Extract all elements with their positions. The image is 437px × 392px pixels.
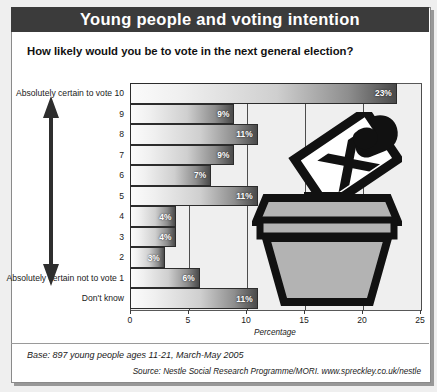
bar-row: 11% (130, 186, 420, 207)
base-note: Base: 897 young people ages 11-21, March… (27, 350, 243, 360)
likelihood-scale-arrow-icon (40, 96, 62, 286)
bar-value-label: 9% (217, 150, 233, 160)
x-axis-tick-label: 10 (241, 315, 251, 325)
bar[interactable]: 11% (130, 186, 258, 207)
y-axis-label: 2 (4, 252, 128, 262)
bar[interactable]: 4% (130, 227, 176, 248)
x-axis-tick-label: 15 (299, 315, 309, 325)
y-axis-label: Absolutely certain not to vote 1 (4, 273, 128, 283)
bar[interactable]: 6% (130, 268, 200, 289)
x-axis-tick-label: 5 (186, 315, 191, 325)
x-axis-title: Percentage (130, 328, 420, 337)
x-axis-tick (362, 310, 363, 314)
bar-value-label: 4% (159, 232, 175, 242)
bar-row: 23% (130, 83, 420, 104)
y-axis-label: Don't know (4, 293, 128, 303)
gridline (421, 84, 422, 310)
x-axis-tick-label: 25 (415, 315, 425, 325)
y-axis-label: 6 (4, 170, 128, 180)
question-text: How likely would you be to vote in the n… (27, 45, 407, 57)
bar[interactable]: 11% (130, 124, 258, 145)
y-axis-label: 9 (4, 109, 128, 119)
y-axis-label: 3 (4, 232, 128, 242)
y-axis-label: 7 (4, 150, 128, 160)
bar-value-label: 9% (217, 109, 233, 119)
y-axis-label: 5 (4, 191, 128, 201)
bar-row: 4% (130, 227, 420, 248)
x-axis: 0510152025 (130, 310, 420, 328)
bar[interactable]: 7% (130, 165, 211, 186)
bar[interactable]: 23% (130, 83, 397, 104)
bar-row: 11% (130, 124, 420, 145)
bar-row: 4% (130, 206, 420, 227)
x-axis-tick (246, 310, 247, 314)
x-axis-tick (188, 310, 189, 314)
y-axis-labels: Absolutely certain to vote 1098765432Abs… (0, 83, 128, 309)
footer-divider (11, 343, 429, 344)
bar-value-label: 11% (236, 129, 256, 139)
bar-row: 7% (130, 165, 420, 186)
bar-value-label: 11% (236, 191, 256, 201)
y-axis-label: Absolutely certain to vote 10 (4, 88, 128, 98)
bar-value-label: 23% (375, 88, 396, 98)
chart-title-bar: Young people and voting intention (11, 7, 429, 32)
screenshot-root: Young people and voting intention How li… (0, 0, 437, 392)
bars-container: 23%9%11%9%7%11%4%4%3%6%11% (130, 83, 420, 309)
bar-row: 9% (130, 145, 420, 166)
bar-value-label: 11% (236, 294, 256, 304)
page-title: Young people and voting intention (80, 10, 360, 29)
bar-value-label: 3% (148, 253, 164, 263)
bar-value-label: 4% (159, 212, 175, 222)
bar[interactable]: 9% (130, 104, 234, 125)
x-axis-tick (420, 310, 421, 314)
x-axis-tick (130, 310, 131, 314)
y-axis-label: 8 (4, 129, 128, 139)
x-axis-tick-label: 0 (128, 315, 133, 325)
bar[interactable]: 3% (130, 247, 165, 268)
bar-row: 6% (130, 268, 420, 289)
bar-row: 11% (130, 288, 420, 309)
bar-value-label: 6% (182, 273, 198, 283)
x-axis-tick-label: 20 (357, 315, 367, 325)
bar[interactable]: 9% (130, 145, 234, 166)
y-axis-label: 4 (4, 211, 128, 221)
bar-row: 3% (130, 247, 420, 268)
bar-row: 9% (130, 104, 420, 125)
x-axis-tick (304, 310, 305, 314)
source-note: Source: Nestle Social Research Programme… (133, 367, 421, 376)
bar[interactable]: 4% (130, 206, 176, 227)
bar[interactable]: 11% (130, 288, 258, 309)
bar-value-label: 7% (194, 170, 210, 180)
